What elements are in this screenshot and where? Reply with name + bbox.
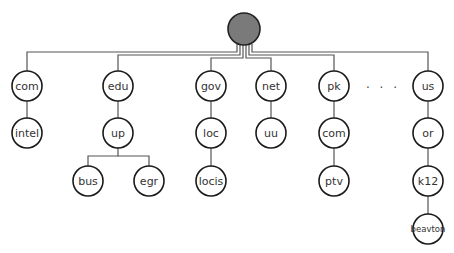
svg-text:us: us xyxy=(422,80,435,93)
svg-text:up: up xyxy=(111,127,125,140)
node-beavton: beavton xyxy=(411,214,446,244)
child-edges xyxy=(27,101,428,214)
ellipsis: . . . xyxy=(366,77,400,91)
svg-text:gov: gov xyxy=(201,80,222,93)
node-gov: gov xyxy=(196,71,226,101)
svg-text:net: net xyxy=(262,80,281,93)
node-pk-com: com xyxy=(319,118,349,148)
node-uu: uu xyxy=(256,118,286,148)
node-loc: loc xyxy=(196,118,226,148)
svg-text:ptv: ptv xyxy=(325,175,343,188)
svg-text:com: com xyxy=(322,127,346,140)
node-up: up xyxy=(103,118,133,148)
node-com: com xyxy=(12,71,42,101)
svg-text:egr: egr xyxy=(140,175,159,188)
svg-text:pk: pk xyxy=(327,80,341,93)
svg-text:beavton: beavton xyxy=(411,224,446,234)
node-intel: intel xyxy=(12,118,42,148)
svg-text:intel: intel xyxy=(15,127,39,140)
svg-text:bus: bus xyxy=(78,175,98,188)
svg-text:uu: uu xyxy=(264,127,278,140)
svg-text:com: com xyxy=(15,80,39,93)
dns-tree-diagram: com intel edu up bus egr gov loc locis n… xyxy=(0,0,454,253)
node-pk: pk xyxy=(319,71,349,101)
node-or: or xyxy=(413,118,443,148)
svg-text:k12: k12 xyxy=(418,175,438,188)
svg-text:or: or xyxy=(422,127,434,140)
node-egr: egr xyxy=(134,166,164,196)
node-us: us xyxy=(413,71,443,101)
node-bus: bus xyxy=(73,166,103,196)
root-node xyxy=(228,13,260,45)
node-locis: locis xyxy=(196,166,226,196)
svg-text:loc: loc xyxy=(203,127,219,140)
node-edu: edu xyxy=(103,71,133,101)
node-ptv: ptv xyxy=(319,166,349,196)
svg-text:locis: locis xyxy=(199,175,224,188)
root-edges xyxy=(27,44,428,71)
node-net: net xyxy=(256,71,286,101)
svg-text:edu: edu xyxy=(108,80,129,93)
node-k12: k12 xyxy=(413,166,443,196)
